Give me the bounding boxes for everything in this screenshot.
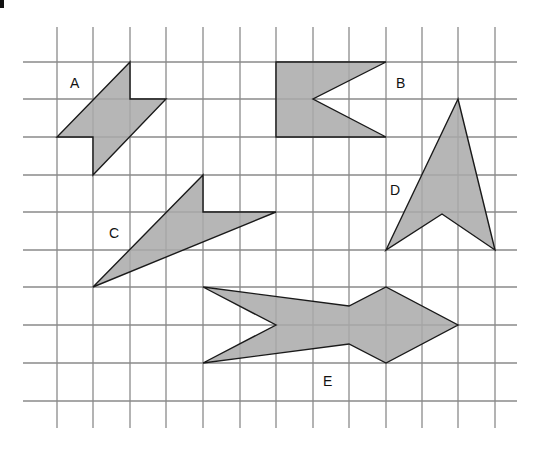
grid-lines <box>23 27 517 428</box>
label-b: B <box>396 76 405 90</box>
grid-canvas <box>0 0 539 451</box>
label-d: D <box>390 183 400 197</box>
label-a: A <box>70 76 79 90</box>
shape-c <box>93 175 276 287</box>
label-c: C <box>109 226 119 240</box>
label-e: E <box>323 374 332 388</box>
